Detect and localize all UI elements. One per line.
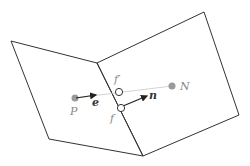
label-e: e [92,96,99,109]
point-f [117,104,124,111]
label-N: N [179,80,190,93]
mesh-diagram: P N e n f′ f [0,0,250,166]
point-N [169,83,176,90]
vector-n [123,96,147,106]
label-n: n [149,89,157,102]
label-P: P [69,105,78,118]
point-f-prime [115,88,122,95]
label-f: f [109,112,116,125]
label-f-prime: f′ [113,73,121,86]
